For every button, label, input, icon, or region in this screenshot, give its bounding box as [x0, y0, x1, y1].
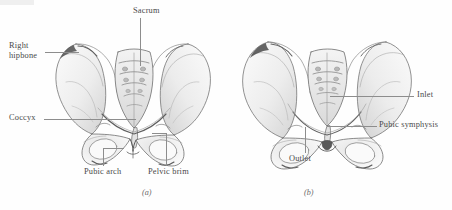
leader-line-coccyx	[44, 119, 136, 120]
female-pelvis-illustration	[238, 22, 418, 172]
label-pubic-arch: Pubic arch	[84, 167, 121, 177]
leader-line-pubic-arch-horizontal	[103, 148, 124, 149]
leader-line-right-hipbone	[45, 52, 79, 53]
panel-male-pelvis: Sacrum Right hipbone Coccyx Pubic arch P…	[0, 0, 226, 210]
label-right-hipbone: Right hipbone	[9, 41, 37, 61]
caption-panel-b: (b)	[304, 188, 314, 197]
leader-line-sacrum	[140, 18, 141, 66]
anatomy-figure: Sacrum Right hipbone Coccyx Pubic arch P…	[0, 0, 452, 210]
label-sacrum: Sacrum	[133, 6, 160, 16]
label-inlet-text: Inlet	[417, 90, 433, 99]
leader-line-pelvic-brim-horizontal	[152, 133, 167, 134]
label-coccyx-text: Coccyx	[9, 113, 36, 122]
leader-line-outlet	[305, 127, 306, 153]
label-sacrum-text: Sacrum	[133, 6, 160, 15]
leader-line-inlet	[330, 96, 414, 97]
label-pubic-symphysis: Pubic symphysis	[379, 120, 438, 130]
label-inlet: Inlet	[417, 90, 433, 100]
panel-female-pelvis: Inlet Pubic symphysis Outlet (b)	[226, 0, 452, 210]
label-pubic-symphysis-text: Pubic symphysis	[379, 120, 438, 129]
caption-panel-a: (a)	[142, 188, 152, 197]
male-pelvis-illustration	[48, 22, 223, 172]
label-right-hipbone-line2: hipbone	[9, 51, 37, 61]
leader-line-pelvic-brim-vertical	[166, 133, 167, 166]
label-outlet-text: Outlet	[289, 154, 311, 163]
leader-line-pubic-symphysis	[327, 126, 377, 127]
leader-line-pubic-arch-vertical	[103, 148, 104, 166]
label-pelvic-brim: Pelvic brim	[148, 167, 189, 177]
caption-panel-b-text: (b)	[304, 188, 314, 197]
label-outlet: Outlet	[289, 154, 311, 164]
label-coccyx: Coccyx	[9, 113, 36, 123]
label-pubic-arch-text: Pubic arch	[84, 167, 121, 176]
caption-panel-a-text: (a)	[142, 188, 152, 197]
label-pelvic-brim-text: Pelvic brim	[148, 167, 189, 176]
label-right-hipbone-line1: Right	[9, 41, 37, 51]
